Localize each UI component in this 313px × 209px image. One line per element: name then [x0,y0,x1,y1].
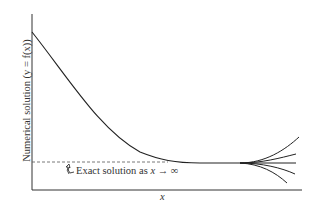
numerical-curve [32,32,240,163]
y-axis-label: Numerical solution (y = f(x)) [21,11,32,191]
annotation-text: Exact solution as [76,165,150,176]
branch-4 [240,163,295,174]
exact-solution-annotation: Exact solution as x → ∞ [76,165,178,176]
annotation-limit: → ∞ [155,165,178,176]
arrow-icon [66,164,74,174]
x-axis-label: x [160,191,165,202]
plot-area [0,0,313,209]
branch-5 [240,163,287,183]
branch-1 [240,137,299,163]
branch-2 [240,154,296,163]
figure: Numerical solution (y = f(x)) Exact solu… [0,0,313,209]
